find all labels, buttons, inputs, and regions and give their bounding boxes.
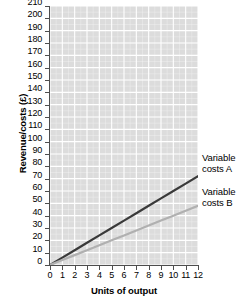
y-axis-tick-label: 0 (16, 257, 42, 266)
y-axis-tick-label: 100 (16, 133, 42, 142)
x-axis-tick-labels: 0123456789101112 (50, 270, 198, 282)
y-axis-tick-label: 200 (16, 10, 42, 19)
y-axis-tick-label: 130 (16, 96, 42, 105)
x-axis-tick-mark (62, 266, 63, 270)
x-axis-tick-mark (161, 266, 162, 270)
x-axis-tick-label: 6 (122, 270, 127, 280)
x-axis-tick-label: 12 (193, 270, 203, 280)
revenue-costs-line-chart: Revenue/costs (£) 0102030405060708090100… (0, 0, 245, 303)
y-axis-tick-label: 80 (16, 158, 42, 167)
y-axis-tick-label: 190 (16, 22, 42, 31)
x-axis-tick-mark (75, 266, 76, 270)
series-label-a-line2: costs A (202, 163, 235, 174)
y-axis-tick-label: 170 (16, 47, 42, 56)
series-label-variable-costs-a: Variable costs A (202, 152, 235, 174)
y-axis-tick-label: 110 (16, 121, 42, 130)
series-lines (50, 6, 198, 265)
x-axis-title: Units of output (40, 285, 208, 296)
y-axis-tick-label: 20 (16, 232, 42, 241)
series-label-b-line2: costs B (202, 197, 235, 208)
y-axis-tick-label: 50 (16, 195, 42, 204)
x-axis-tick-mark (149, 266, 150, 270)
y-axis-tick-label: 40 (16, 207, 42, 216)
y-axis-tick-label: 70 (16, 170, 42, 179)
plot-area (50, 6, 198, 265)
x-axis-tick-label: 5 (109, 270, 114, 280)
x-axis-tick-mark (124, 266, 125, 270)
x-axis-tick-mark (198, 266, 199, 270)
series-label-b-line1: Variable (202, 186, 235, 197)
x-axis-tick-label: 8 (146, 270, 151, 280)
y-axis-tick-label: 10 (16, 244, 42, 253)
x-axis-tick-mark (112, 266, 113, 270)
x-axis-tick-label: 4 (97, 270, 102, 280)
y-axis-tick-label: 90 (16, 146, 42, 155)
y-axis-tick-label: 180 (16, 35, 42, 44)
y-axis-tick-label: 150 (16, 72, 42, 81)
x-axis-tick-label: 7 (134, 270, 139, 280)
x-axis-tick-mark (136, 266, 137, 270)
y-axis-tick-label: 60 (16, 183, 42, 192)
x-axis-tick-mark (87, 266, 88, 270)
x-axis-tick-mark (99, 266, 100, 270)
x-axis-tick-label: 2 (72, 270, 77, 280)
x-axis-tick-label: 9 (159, 270, 164, 280)
y-axis-tick-labels: 0102030405060708090100110120130140150160… (16, 2, 42, 268)
x-axis-tick-mark (50, 266, 51, 270)
x-axis-tick-mark (173, 266, 174, 270)
y-axis-tick-label: 160 (16, 59, 42, 68)
x-axis-tick-label: 11 (181, 270, 190, 280)
series-label-a-line1: Variable (202, 152, 235, 163)
x-axis-tick-label: 10 (169, 270, 179, 280)
y-axis-tick-label: 120 (16, 109, 42, 118)
y-axis-tick-label: 210 (16, 0, 42, 7)
x-axis-tick-label: 3 (85, 270, 90, 280)
y-axis-tick-label: 140 (16, 84, 42, 93)
x-axis-tick-mark (186, 266, 187, 270)
series-label-variable-costs-b: Variable costs B (202, 186, 235, 208)
x-axis-tick-label: 1 (60, 270, 65, 280)
x-axis-tick-label: 0 (48, 270, 53, 280)
y-axis-tick-label: 30 (16, 220, 42, 229)
